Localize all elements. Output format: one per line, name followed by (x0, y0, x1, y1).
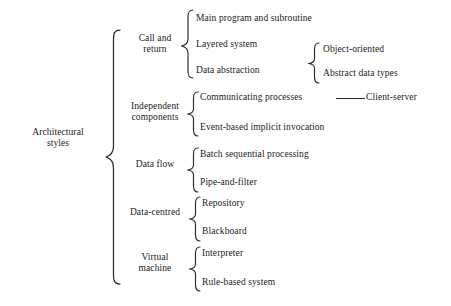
leaf-blackboard: Blackboard (202, 226, 352, 237)
leaf-interpreter: Interpreter (202, 248, 362, 259)
connector-line-communicating-processes-client-server (336, 98, 365, 99)
root-node-architectural-styles: Architectural styles (12, 127, 104, 149)
category-label-virtual-machine: Virtual machine (124, 252, 186, 274)
linked-node-client-server: Client-server (366, 92, 450, 103)
leaf-event-based-implicit-invocation: Event-based implicit invocation (200, 122, 390, 133)
category-label-data-centred: Data-centred (120, 207, 190, 218)
category-label-call-and-return: Call and return (124, 33, 186, 55)
diagram-canvas: Architectural styles Call and return Mai… (0, 0, 451, 306)
category-brace-data-centred (188, 195, 202, 243)
category-label-independent-components: Independent components (122, 101, 188, 123)
category-brace-call-and-return (180, 8, 195, 80)
category-brace-data-flow (186, 146, 200, 194)
subcategory-brace-data-abstraction (307, 41, 321, 85)
leaf-main-program-and-subroutine: Main program and subroutine (196, 13, 376, 24)
category-brace-independent-components (186, 90, 200, 138)
leaf-pipe-and-filter: Pipe-and-filter (200, 177, 370, 188)
category-brace-virtual-machine (188, 245, 202, 293)
leaf-repository: Repository (202, 198, 352, 209)
leaf-batch-sequential-processing: Batch sequential processing (200, 149, 370, 160)
leaf-object-oriented: Object-oriented (323, 44, 449, 55)
leaf-abstract-data-types: Abstract data types (323, 68, 449, 79)
leaf-rule-based-system: Rule-based system (202, 277, 362, 288)
category-label-data-flow: Data flow (122, 159, 188, 170)
root-brace (104, 28, 122, 286)
